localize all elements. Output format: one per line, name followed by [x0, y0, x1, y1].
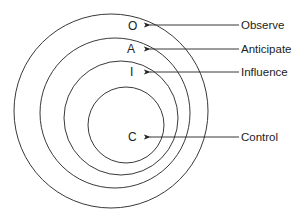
label-anticipate: Anticipate — [241, 43, 292, 55]
circle-control — [88, 87, 164, 163]
circle-influence — [64, 61, 178, 175]
letter-c: C — [128, 130, 137, 144]
circle-observe — [14, 14, 208, 208]
label-control: Control — [241, 131, 278, 143]
letter-i: I — [130, 65, 133, 79]
letter-o: O — [128, 19, 137, 33]
letter-a: A — [127, 42, 135, 56]
label-observe: Observe — [241, 19, 284, 31]
circle-anticipate — [40, 38, 190, 188]
label-influence: Influence — [241, 66, 288, 78]
oaic-diagram: O A I C Observe Anticipate Influence Con… — [0, 0, 308, 222]
